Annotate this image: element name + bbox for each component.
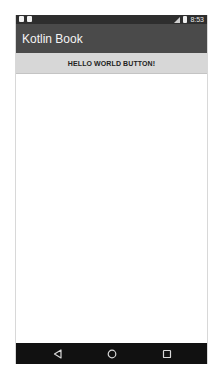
- app-toolbar: Kotlin Book: [16, 24, 207, 53]
- back-button[interactable]: [43, 343, 73, 364]
- back-icon: [53, 349, 63, 359]
- status-time: 8:53: [190, 15, 204, 24]
- recents-icon: [162, 349, 172, 359]
- hello-world-button[interactable]: HELLO WORLD BUTTON!: [16, 53, 207, 74]
- recents-button[interactable]: [152, 343, 182, 364]
- battery-icon: [183, 16, 187, 23]
- signal-icon: [174, 17, 180, 23]
- notification-icon: [27, 16, 32, 22]
- status-bar-system-icons: 8:53: [174, 15, 204, 24]
- app-title: Kotlin Book: [22, 32, 83, 46]
- home-icon: [107, 349, 117, 359]
- status-bar: 8:53: [16, 15, 207, 24]
- navigation-bar: [16, 343, 207, 364]
- content-area: [16, 74, 207, 343]
- status-bar-notifications: [19, 16, 32, 22]
- notification-icon: [19, 16, 24, 22]
- phone-screen: 8:53 Kotlin Book HELLO WORLD BUTTON!: [15, 15, 208, 364]
- home-button[interactable]: [97, 343, 127, 364]
